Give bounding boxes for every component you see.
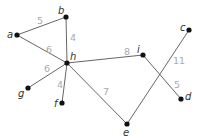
node-h — [64, 60, 69, 65]
edge-weight-labels: 5466487511 — [37, 15, 185, 97]
node-g — [25, 85, 30, 90]
node-label-h: h — [70, 51, 76, 62]
node-label-d: d — [185, 91, 192, 102]
node-label-f: f — [54, 98, 59, 109]
node-label-i: i — [137, 44, 140, 55]
node-f — [59, 100, 64, 105]
edge-b-h — [66, 17, 67, 63]
edges — [17, 17, 189, 124]
node-labels: abhgficde — [7, 5, 192, 136]
node-i — [140, 52, 145, 57]
edge-weight-a-b: 5 — [37, 15, 43, 26]
edge-weight-h-g: 6 — [44, 63, 50, 74]
node-label-e: e — [123, 127, 129, 136]
weighted-graph: 5466487511 abhgficde — [0, 0, 203, 136]
edge-weight-i-d: 5 — [174, 79, 180, 90]
nodes — [14, 14, 191, 126]
node-e — [124, 121, 129, 126]
edge-weight-a-h: 6 — [46, 44, 52, 55]
node-label-c: c — [180, 22, 186, 33]
edge-weight-h-f: 4 — [57, 79, 63, 90]
edge-weight-e-c: 11 — [173, 55, 185, 66]
node-c — [186, 27, 191, 32]
node-label-g: g — [18, 88, 24, 99]
node-label-b: b — [58, 5, 64, 16]
edge-a-h — [17, 35, 67, 63]
edge-weight-h-i: 8 — [124, 46, 130, 57]
edge-weight-b-h: 4 — [70, 32, 76, 43]
node-label-a: a — [7, 29, 13, 40]
node-a — [14, 32, 19, 37]
node-d — [178, 96, 183, 101]
edge-h-i — [67, 55, 143, 63]
edge-weight-h-e: 7 — [103, 86, 109, 97]
edge-h-e — [67, 63, 127, 124]
